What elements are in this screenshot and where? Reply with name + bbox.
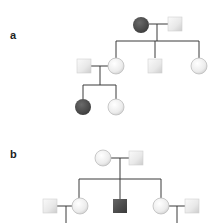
unaffected-male-symbol — [43, 199, 57, 213]
unaffected-male-symbol — [77, 59, 91, 73]
pedigree-diagram: a b — [0, 0, 219, 223]
affected-male-symbol — [113, 199, 127, 213]
panel-label-a: a — [10, 29, 17, 41]
affected-female-symbol — [133, 17, 149, 33]
affected-female-symbol — [75, 99, 91, 115]
unaffected-male-symbol — [185, 199, 199, 213]
pedigree-panel-a: a — [10, 17, 207, 115]
unaffected-female-symbol — [108, 58, 124, 74]
unaffected-male-symbol — [168, 17, 182, 31]
panel-label-b: b — [10, 148, 17, 160]
pedigree-panel-b: b — [10, 148, 199, 223]
unaffected-male-symbol — [148, 59, 162, 73]
unaffected-male-symbol — [129, 151, 143, 165]
unaffected-female-symbol — [153, 198, 169, 214]
unaffected-female-symbol — [95, 150, 111, 166]
unaffected-female-symbol — [72, 198, 88, 214]
unaffected-female-symbol — [191, 58, 207, 74]
unaffected-female-symbol — [108, 99, 124, 115]
